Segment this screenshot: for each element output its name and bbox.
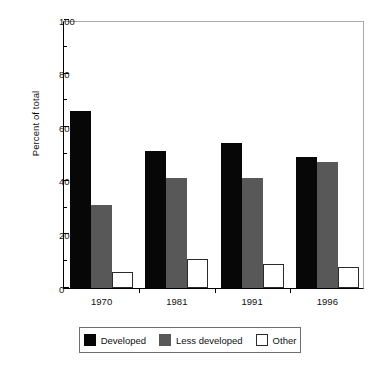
legend-label: Less developed xyxy=(176,335,243,346)
y-axis-minor-tick xyxy=(64,207,67,208)
bar-developed-1981[interactable] xyxy=(145,151,166,288)
legend-label: Developed xyxy=(101,335,146,346)
legend-swatch-developed-icon xyxy=(84,334,96,346)
bar-other-1981[interactable] xyxy=(187,259,208,288)
bar-group xyxy=(145,22,208,288)
bar-developed-1996[interactable] xyxy=(296,157,317,288)
x-axis-tick xyxy=(139,288,140,293)
x-axis-tick-label: 1996 xyxy=(317,296,338,307)
bar-chart-figure: Percent of total 020406080100 1970198119… xyxy=(0,0,379,369)
legend-item-other[interactable]: Other xyxy=(256,334,297,346)
x-axis-tick xyxy=(290,288,291,293)
y-axis-minor-tick xyxy=(64,46,67,47)
bar-less-developed-1981[interactable] xyxy=(166,178,187,288)
x-axis-tick-label: 1970 xyxy=(91,296,112,307)
plot-area: 020406080100 1970198119911996 xyxy=(63,21,364,289)
bar-other-1996[interactable] xyxy=(338,267,359,288)
y-axis-title: Percent of total xyxy=(30,49,41,199)
y-axis-minor-tick xyxy=(64,260,67,261)
bar-less-developed-1991[interactable] xyxy=(242,178,263,288)
bar-less-developed-1996[interactable] xyxy=(317,162,338,288)
bar-other-1991[interactable] xyxy=(263,264,284,288)
bar-group xyxy=(296,22,359,288)
legend-swatch-other-icon xyxy=(256,334,268,346)
y-axis-minor-tick xyxy=(64,153,67,154)
bar-other-1970[interactable] xyxy=(112,272,133,288)
x-axis-tick-label: 1991 xyxy=(242,296,263,307)
legend-swatch-less-developed-icon xyxy=(159,334,171,346)
bar-group xyxy=(221,22,284,288)
chart-legend: DevelopedLess developedOther xyxy=(79,327,301,353)
y-axis-tick xyxy=(64,287,69,288)
legend-item-developed[interactable]: Developed xyxy=(84,334,146,346)
x-axis-tick-label: 1981 xyxy=(166,296,187,307)
x-axis-tick xyxy=(215,288,216,293)
legend-label: Other xyxy=(273,335,297,346)
bar-developed-1970[interactable] xyxy=(70,111,91,288)
legend-item-less-developed[interactable]: Less developed xyxy=(159,334,243,346)
bar-group xyxy=(70,22,133,288)
bar-less-developed-1970[interactable] xyxy=(91,205,112,288)
bar-developed-1991[interactable] xyxy=(221,143,242,288)
y-axis-minor-tick xyxy=(64,99,67,100)
